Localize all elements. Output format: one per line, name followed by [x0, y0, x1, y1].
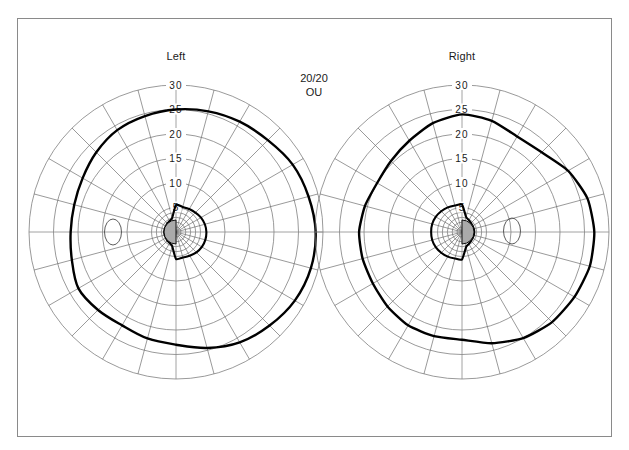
acuity-value: 20/20 [272, 71, 356, 85]
visual-acuity-annotation: 20/20 OU [272, 71, 356, 99]
chart-title-left-eye: Left [148, 50, 204, 62]
acuity-eye-code: OU [272, 85, 356, 99]
chart-title-right-eye: Right [434, 50, 490, 62]
visual-field-report: 5101520253051015202530 Left Right 20/20 … [0, 0, 629, 450]
